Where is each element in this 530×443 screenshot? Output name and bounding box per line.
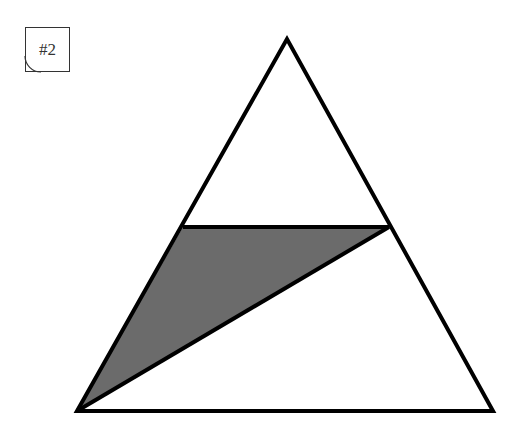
label-corner-arc: [25, 56, 41, 72]
geometry-diagram: [0, 0, 530, 443]
